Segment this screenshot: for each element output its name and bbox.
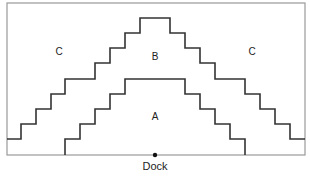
dock-point-icon	[153, 153, 157, 157]
region-label-a: A	[152, 111, 159, 122]
zone-diagram: C B C A Dock	[0, 0, 310, 176]
region-label-b: B	[152, 51, 159, 62]
region-label-c-left: C	[55, 46, 62, 57]
dock-label: Dock	[142, 160, 168, 172]
region-label-c-right: C	[248, 46, 255, 57]
